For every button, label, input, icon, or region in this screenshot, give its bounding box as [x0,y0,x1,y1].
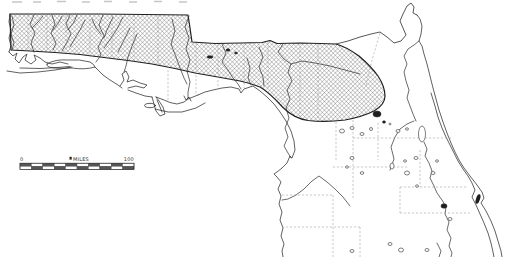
florida-range-map: 0 MILES 100 [0,0,506,257]
merritt-island-dark-mark [475,194,482,205]
oklawaha-river [390,121,414,170]
withlacoochee-river [282,176,350,206]
santa-rosa-barrier-island [7,67,72,74]
lake-george [419,126,426,142]
pensacola-bays [9,52,68,64]
lake-monroe-dark [441,204,447,208]
st-johns-river [404,41,452,257]
coast-to-apalachicola [156,95,198,104]
cropped-text-remnant-marks [12,2,187,3]
scale-bar-end-label: 100 [124,156,134,162]
scanned-map-page: 0 MILES 100 [0,0,506,257]
scale-bar-zero-label: 0 [20,156,23,162]
apalachicola-delta [184,96,191,101]
plus-mark [389,123,392,126]
georgia-border-and-st-marys-river [336,3,417,44]
scale-bar-marker-square [70,157,72,160]
amelia-to-canaveral-coast [417,15,502,257]
scale-bar: 0 MILES 100 [20,156,134,170]
scale-bar-unit-label: MILES [73,156,89,162]
scale-bar-segments [20,163,134,169]
orange-lake-dark [373,111,381,117]
big-bend-coast [198,86,295,257]
kissimmee-headwater [437,243,441,257]
beach-coast-destin-to-panama-city [95,67,122,88]
indian-river-lagoon [431,93,494,257]
st-vincent-island [145,103,156,107]
atlantic-coastline [417,15,502,257]
st-george-barrier-island [155,103,205,112]
st-andrew-bay [120,71,152,97]
